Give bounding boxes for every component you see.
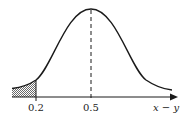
tick-label-0.2: 0.2 [28, 103, 44, 113]
x-axis-label: x − y [153, 103, 179, 113]
bell-curve [12, 9, 172, 90]
x-axis-arrow-icon [170, 94, 178, 101]
tick-label-0.5: 0.5 [83, 103, 99, 113]
